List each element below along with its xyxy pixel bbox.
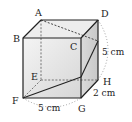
vertex-label-h: H <box>103 76 111 87</box>
vertex-label-e: E <box>31 71 38 82</box>
vertex-label-c: C <box>70 41 77 52</box>
vertex-label-d: D <box>101 8 109 19</box>
cuboid-diagram: A B C D E F G H 5 cm 2 cm 5 cm <box>0 0 132 122</box>
dimension-depth: 2 cm <box>93 88 116 98</box>
dimension-width: 5 cm <box>38 103 61 113</box>
dimension-height: 5 cm <box>102 47 125 57</box>
vertex-label-g: G <box>78 103 86 114</box>
vertex-label-b: B <box>13 33 20 44</box>
vertex-label-f: F <box>12 95 19 106</box>
vertex-label-a: A <box>34 7 42 18</box>
